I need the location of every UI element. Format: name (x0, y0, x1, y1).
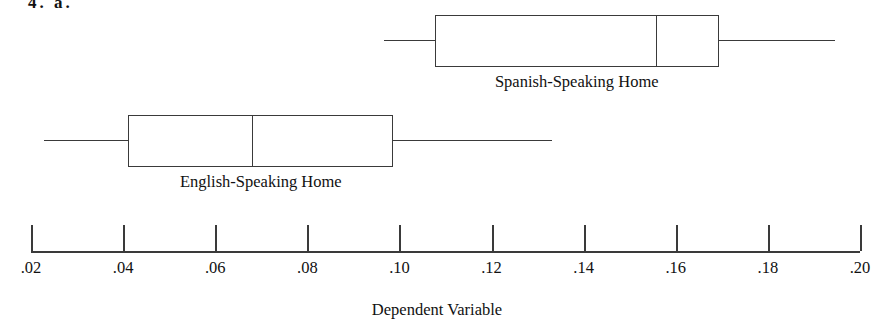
median-line (252, 115, 253, 167)
boxplot-figure: 4. a. Spanish-Speaking HomeEnglish-Speak… (0, 0, 874, 333)
axis-tick (307, 225, 309, 251)
whisker-low (44, 140, 128, 141)
axis-tick-label: .10 (389, 258, 410, 278)
axis-tick (860, 225, 862, 251)
axis-tick-label: .12 (481, 258, 502, 278)
x-axis-title: Dependent Variable (0, 300, 874, 320)
axis-tick (676, 225, 678, 251)
group-label: Spanish-Speaking Home (495, 72, 659, 92)
group-label: English-Speaking Home (180, 172, 342, 192)
axis-tick-label: .18 (758, 258, 779, 278)
plot-area: Spanish-Speaking HomeEnglish-Speaking Ho… (0, 0, 874, 333)
whisker-low (384, 40, 435, 41)
axis-tick (768, 225, 770, 251)
axis-tick-label: .14 (573, 258, 594, 278)
box-iqr (435, 15, 719, 67)
median-line (656, 15, 657, 67)
box-iqr (128, 115, 393, 167)
whisker-high (393, 140, 552, 141)
axis-tick (584, 225, 586, 251)
axis-tick (492, 225, 494, 251)
axis-tick-label: .04 (113, 258, 134, 278)
axis-tick (31, 225, 33, 251)
axis-tick (399, 225, 401, 251)
axis-tick (215, 225, 217, 251)
whisker-high (719, 40, 835, 41)
axis-tick-label: .16 (665, 258, 686, 278)
axis-tick-label: .06 (205, 258, 226, 278)
axis-tick-label: .20 (850, 258, 871, 278)
axis-tick-label: .08 (297, 258, 318, 278)
axis-baseline (31, 251, 860, 253)
axis-tick-label: .02 (21, 258, 42, 278)
axis-tick (123, 225, 125, 251)
